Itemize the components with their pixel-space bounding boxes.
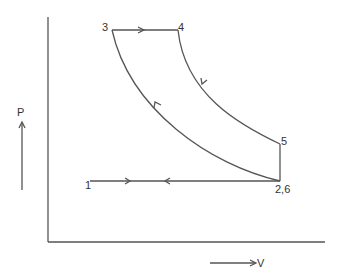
point-label-3: 3: [102, 21, 108, 33]
process-curve-4-5: [178, 30, 280, 144]
point-label-5: 5: [281, 135, 287, 147]
x-axis-label: V: [257, 257, 265, 269]
point-label-1: 1: [85, 179, 91, 191]
point-label-4: 4: [178, 21, 184, 33]
y-axis-label: P: [17, 106, 24, 118]
arrow-up-left-icon: [154, 102, 161, 108]
pv-diagram: P V 3 4 5 2,6 1: [0, 0, 341, 279]
point-label-2-6: 2,6: [275, 183, 290, 195]
volume-arrow-icon: [210, 260, 256, 266]
arrow-down-right-icon: [201, 78, 207, 84]
process-curve-2-3: [112, 30, 280, 181]
pressure-arrow-icon: [19, 122, 25, 190]
